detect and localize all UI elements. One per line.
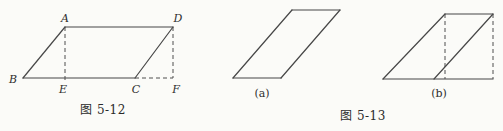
vertex-label-d: D bbox=[174, 13, 183, 24]
caption-figure-5-12: 图 5-12 bbox=[80, 104, 126, 116]
vertex-label-b: B bbox=[9, 74, 17, 85]
fig-5-12-parallelogram-abcd bbox=[23, 27, 173, 78]
textbook-figure-panel: A D B E C F (a) (b) 图 5-12 图 5-13 bbox=[0, 0, 503, 131]
sublabel-b: (b) bbox=[431, 88, 447, 99]
fig-5-13b-parallelogram bbox=[383, 14, 493, 79]
fig-5-13b-height-lines bbox=[445, 14, 493, 79]
fig-5-13a-parallelogram bbox=[233, 10, 340, 78]
fig-5-12-height-lines bbox=[65, 27, 173, 81]
vertex-label-f: F bbox=[172, 84, 180, 95]
geometry-diagram-svg bbox=[0, 0, 503, 131]
caption-figure-5-13: 图 5-13 bbox=[340, 110, 386, 122]
vertex-label-a: A bbox=[61, 13, 69, 24]
vertex-label-c: C bbox=[132, 84, 140, 95]
sublabel-a: (a) bbox=[254, 88, 269, 99]
vertex-label-e: E bbox=[59, 84, 67, 95]
